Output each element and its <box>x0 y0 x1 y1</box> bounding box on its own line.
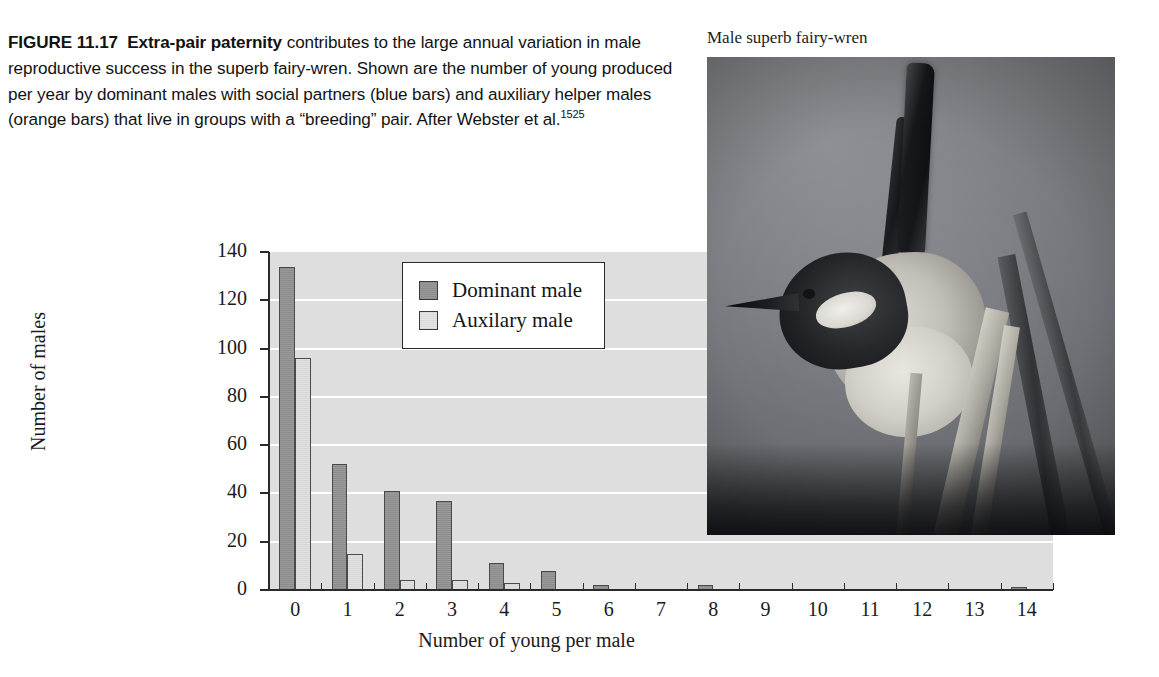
bar-dominant-8 <box>698 585 714 590</box>
x-axis-tick-label: 2 <box>380 598 420 621</box>
bar-auxilary-3 <box>452 580 468 590</box>
x-axis-tick-label: 8 <box>693 598 733 621</box>
x-axis-tick <box>426 583 427 590</box>
y-axis-title: Number of males <box>27 282 50 482</box>
x-axis-tick <box>321 583 322 590</box>
bar-dominant-6 <box>593 585 609 590</box>
x-axis-tick-label: 6 <box>589 598 629 621</box>
x-axis-tick <box>530 583 531 590</box>
legend-label-auxilary: Auxilary male <box>452 308 573 333</box>
y-axis-tick <box>260 251 269 253</box>
y-axis-tick-label: 40 <box>191 480 247 503</box>
legend-item-dominant: Dominant male <box>419 278 582 303</box>
x-axis-tick-label: 4 <box>484 598 524 621</box>
y-axis-tick <box>260 348 269 350</box>
x-axis-title: Number of young per male <box>0 629 1053 652</box>
superb-fairy-wren-photo <box>707 57 1115 535</box>
bar-dominant-5 <box>541 571 557 590</box>
y-axis-tick-label: 0 <box>191 577 247 600</box>
x-axis-tick-label: 0 <box>275 598 315 621</box>
figure-number: FIGURE 11.17 <box>8 33 118 52</box>
x-axis-tick <box>948 583 949 590</box>
bar-auxilary-0 <box>295 358 311 590</box>
bar-dominant-2 <box>384 491 400 590</box>
legend-item-auxilary: Auxilary male <box>419 308 582 333</box>
photo-caption: Male superb fairy-wren <box>707 28 868 48</box>
bar-auxilary-2 <box>400 580 416 590</box>
x-axis-tick-label: 5 <box>536 598 576 621</box>
chart-legend: Dominant male Auxilary male <box>402 262 605 349</box>
x-axis-tick <box>635 583 636 590</box>
y-axis-tick-label: 140 <box>191 239 247 262</box>
x-axis-tick-label: 9 <box>746 598 786 621</box>
x-axis-tick <box>583 583 584 590</box>
bar-dominant-0 <box>279 267 295 591</box>
x-axis-tick-label: 3 <box>432 598 472 621</box>
y-axis-tick-label: 100 <box>191 336 247 359</box>
y-axis-tick <box>260 589 269 591</box>
x-axis-tick <box>269 583 270 590</box>
x-axis-tick <box>478 583 479 590</box>
y-axis-tick-label: 20 <box>191 529 247 552</box>
y-axis-tick <box>260 444 269 446</box>
bar-dominant-14 <box>1011 587 1027 590</box>
legend-label-dominant: Dominant male <box>452 278 582 303</box>
x-axis-tick <box>1001 583 1002 590</box>
bar-auxilary-4 <box>504 583 520 590</box>
bar-dominant-4 <box>489 563 505 590</box>
bar-dominant-3 <box>436 501 452 590</box>
x-axis-tick <box>739 583 740 590</box>
bar-dominant-1 <box>332 464 348 590</box>
x-axis-tick-label: 11 <box>850 598 890 621</box>
x-axis-tick <box>792 583 793 590</box>
y-axis-tick-label: 60 <box>191 432 247 455</box>
figure-caption-lead: Extra-pair paternity <box>127 33 282 52</box>
x-axis-tick-label: 12 <box>902 598 942 621</box>
legend-swatch-auxilary <box>419 311 438 330</box>
x-axis-tick-label: 1 <box>327 598 367 621</box>
figure-caption: FIGURE 11.17 Extra-pair paternity contri… <box>8 30 698 133</box>
x-axis-tick <box>1053 583 1054 590</box>
x-axis-tick <box>844 583 845 590</box>
bar-auxilary-1 <box>347 554 363 590</box>
legend-swatch-dominant <box>419 281 438 300</box>
photo-vignette <box>707 57 1115 535</box>
y-axis-tick <box>260 492 269 494</box>
x-axis-tick-label: 14 <box>1007 598 1047 621</box>
x-axis-tick <box>687 583 688 590</box>
x-axis-tick-label: 7 <box>641 598 681 621</box>
figure-page: FIGURE 11.17 Extra-pair paternity contri… <box>0 0 1159 677</box>
x-axis-tick-label: 13 <box>955 598 995 621</box>
x-axis-tick <box>374 583 375 590</box>
y-axis-tick <box>260 541 269 543</box>
y-axis-tick <box>260 396 269 398</box>
y-axis-tick-label: 120 <box>191 287 247 310</box>
y-axis-tick-label: 80 <box>191 384 247 407</box>
x-axis-tick <box>896 583 897 590</box>
x-axis-tick-label: 10 <box>798 598 838 621</box>
y-axis-tick <box>260 299 269 301</box>
gridline <box>269 541 1053 543</box>
x-axis <box>269 589 1053 591</box>
y-axis <box>268 252 270 591</box>
figure-reference-superscript: 1525 <box>560 109 584 121</box>
